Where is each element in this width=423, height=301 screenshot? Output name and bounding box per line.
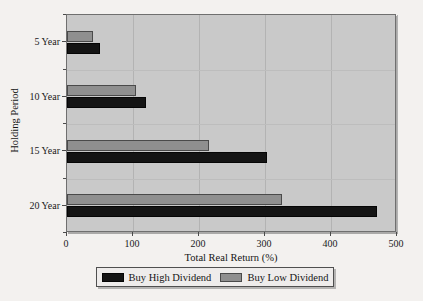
x-tick-label-100: 100 <box>125 238 140 249</box>
x-tick-mark <box>66 232 67 236</box>
legend-swatch-icon <box>102 273 124 282</box>
gridline-horizontal <box>67 124 395 125</box>
y-tick-label-15-year: 15 Year <box>29 145 60 156</box>
y-tick-mark <box>62 96 66 97</box>
chart-figure: 0100200300400500 5 Year10 Year15 Year20 … <box>0 0 423 301</box>
x-tick-mark <box>330 232 331 236</box>
gridline-horizontal <box>67 179 395 180</box>
x-tick-mark <box>396 232 397 236</box>
bar-low-dividend-15-year <box>67 140 209 151</box>
x-tick-label-500: 500 <box>389 238 404 249</box>
y-minor-tick-mark <box>63 123 66 124</box>
plot-area <box>66 14 396 232</box>
legend-label: Buy Low Dividend <box>247 272 328 283</box>
legend-entry-buy-low-dividend: Buy Low Dividend <box>220 272 328 283</box>
legend-swatch-icon <box>220 273 242 282</box>
bar-high-dividend-5-year <box>67 43 100 54</box>
gridline-vertical <box>397 15 398 231</box>
x-tick-label-200: 200 <box>191 238 206 249</box>
y-tick-mark <box>62 41 66 42</box>
x-tick-label-300: 300 <box>257 238 272 249</box>
gridline-horizontal <box>67 70 395 71</box>
x-tick-label-400: 400 <box>323 238 338 249</box>
y-tick-mark <box>62 205 66 206</box>
y-tick-label-20-year: 20 Year <box>29 199 60 210</box>
y-minor-tick-mark <box>63 178 66 179</box>
x-tick-label-0: 0 <box>64 238 69 249</box>
bar-high-dividend-10-year <box>67 97 146 108</box>
x-axis-title: Total Real Return (%) <box>66 252 396 263</box>
bar-low-dividend-5-year <box>67 31 93 42</box>
chart-legend: Buy High DividendBuy Low Dividend <box>96 267 334 287</box>
x-tick-mark <box>132 232 133 236</box>
y-tick-label-10-year: 10 Year <box>29 90 60 101</box>
bar-low-dividend-20-year <box>67 194 282 205</box>
y-axis-title: Holding Period <box>9 66 20 176</box>
y-tick-label-5-year: 5 Year <box>34 36 60 47</box>
bar-high-dividend-20-year <box>67 206 377 217</box>
y-tick-mark <box>62 150 66 151</box>
bar-high-dividend-15-year <box>67 152 267 163</box>
legend-label: Buy High Dividend <box>129 272 212 283</box>
gridline-vertical <box>331 15 332 231</box>
x-tick-mark <box>198 232 199 236</box>
y-minor-tick-mark <box>63 69 66 70</box>
y-minor-tick-mark <box>63 14 66 15</box>
legend-entry-buy-high-dividend: Buy High Dividend <box>102 272 212 283</box>
x-tick-mark <box>264 232 265 236</box>
bar-low-dividend-10-year <box>67 85 136 96</box>
y-minor-tick-mark <box>63 232 66 233</box>
